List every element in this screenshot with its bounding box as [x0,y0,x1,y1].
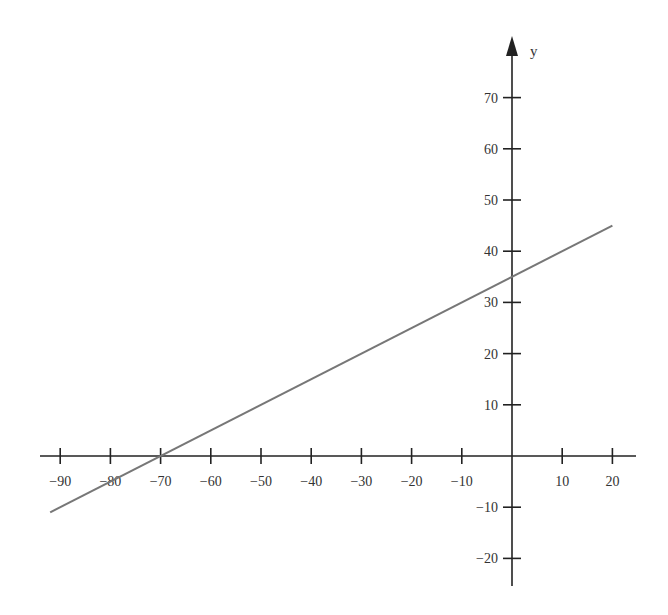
x-tick-label: −50 [250,474,272,489]
y-tick-label: 50 [484,193,498,208]
y-axis-title: y [530,43,538,59]
y-tick-label: −10 [476,500,498,515]
y-tick-label: 20 [484,347,498,362]
ticks [60,98,612,559]
x-tick-label: −30 [350,474,372,489]
x-tick-label: −40 [300,474,322,489]
x-tick-label: 10 [555,474,569,489]
series-line [50,226,612,513]
x-tick-label: −70 [150,474,172,489]
y-axis-arrow-icon [506,36,518,56]
x-tick-label: −90 [49,474,71,489]
x-tick-label: −20 [401,474,423,489]
y-tick-label: 30 [484,295,498,310]
x-tick-label: −10 [451,474,473,489]
x-tick-label: −60 [200,474,222,489]
data-series [50,226,612,513]
tick-labels: −90−80−70−60−50−40−30−20−101020706050403… [49,91,619,567]
y-tick-label: 40 [484,244,498,259]
x-tick-label: 20 [605,474,619,489]
y-tick-label: 70 [484,91,498,106]
y-tick-label: 60 [484,142,498,157]
y-tick-label: 10 [484,398,498,413]
axes [40,36,636,586]
y-tick-label: −20 [476,551,498,566]
chart: −90−80−70−60−50−40−30−20−101020706050403… [0,0,668,615]
